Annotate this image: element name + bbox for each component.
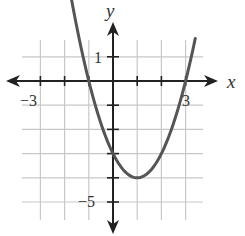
y-tick-label-neg5: −5 — [78, 193, 95, 210]
y-axis-label: y — [104, 0, 115, 21]
x-axis-label: x — [226, 71, 236, 92]
x-tick-label-3: 3 — [182, 92, 190, 109]
x-tick-label-neg3: −3 — [20, 92, 37, 109]
y-tick-label-1: 1 — [94, 49, 102, 66]
parabola-graph: x y −3 3 1 −5 — [0, 0, 245, 236]
